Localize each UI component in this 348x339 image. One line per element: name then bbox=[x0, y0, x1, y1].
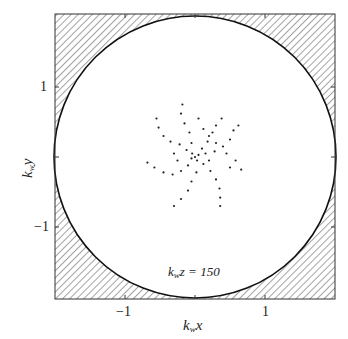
data-point bbox=[240, 169, 242, 171]
data-point bbox=[225, 152, 227, 154]
data-point bbox=[229, 138, 231, 140]
data-point bbox=[232, 129, 234, 131]
data-point bbox=[179, 143, 181, 145]
x-axis-label: kwx bbox=[183, 318, 202, 334]
data-point bbox=[201, 148, 203, 150]
data-point bbox=[202, 163, 204, 165]
data-point bbox=[219, 197, 221, 199]
data-point bbox=[158, 127, 160, 129]
data-point bbox=[218, 187, 220, 189]
data-point bbox=[176, 159, 178, 161]
y-label-var: y bbox=[19, 159, 35, 166]
data-point bbox=[183, 122, 185, 124]
data-point bbox=[153, 166, 155, 168]
annot-text: z = 150 bbox=[180, 264, 220, 279]
data-point bbox=[187, 164, 189, 166]
y-label-k: k bbox=[19, 171, 35, 178]
y-tick-neg1: −1 bbox=[34, 220, 49, 234]
data-point bbox=[208, 135, 210, 137]
data-point bbox=[211, 131, 213, 133]
annotation-kwz: kwz = 150 bbox=[168, 265, 220, 280]
data-point bbox=[146, 162, 148, 164]
data-point bbox=[188, 131, 190, 133]
data-point bbox=[197, 154, 199, 156]
data-point bbox=[155, 117, 157, 119]
data-point bbox=[162, 135, 164, 137]
y-tick-1: 1 bbox=[40, 80, 47, 94]
data-point bbox=[222, 145, 224, 147]
data-point bbox=[204, 152, 206, 154]
data-point bbox=[207, 141, 209, 143]
data-point bbox=[191, 152, 193, 154]
data-point bbox=[215, 124, 217, 126]
data-point bbox=[180, 170, 182, 172]
data-point bbox=[215, 178, 217, 180]
figure-plot bbox=[0, 0, 348, 339]
data-point bbox=[237, 124, 239, 126]
data-point bbox=[196, 159, 198, 161]
data-point bbox=[202, 128, 204, 130]
data-point bbox=[215, 142, 217, 144]
data-point bbox=[181, 103, 183, 105]
data-point bbox=[162, 171, 164, 173]
x-label-k: k bbox=[183, 317, 190, 333]
data-point bbox=[214, 150, 216, 152]
y-axis-label: kwy bbox=[20, 159, 36, 178]
data-point bbox=[209, 170, 211, 172]
data-point bbox=[195, 171, 197, 173]
data-point bbox=[173, 152, 175, 154]
x-tick-neg1: −1 bbox=[116, 305, 131, 319]
data-point bbox=[190, 142, 192, 144]
x-tick-1: 1 bbox=[262, 305, 269, 319]
data-point bbox=[180, 198, 182, 200]
data-point bbox=[190, 180, 192, 182]
data-point bbox=[173, 205, 175, 207]
data-point bbox=[219, 205, 221, 207]
x-label-var: x bbox=[196, 317, 203, 333]
data-point bbox=[180, 113, 182, 115]
data-point bbox=[229, 166, 231, 168]
data-point bbox=[186, 149, 188, 151]
y-label-sub: w bbox=[26, 165, 36, 171]
data-point bbox=[169, 141, 171, 143]
data-point bbox=[197, 117, 199, 119]
data-point bbox=[194, 156, 196, 158]
data-point bbox=[172, 173, 174, 175]
data-point bbox=[190, 157, 192, 159]
data-point bbox=[187, 190, 189, 192]
data-point bbox=[221, 117, 223, 119]
data-point bbox=[235, 159, 237, 161]
data-point bbox=[208, 159, 210, 161]
